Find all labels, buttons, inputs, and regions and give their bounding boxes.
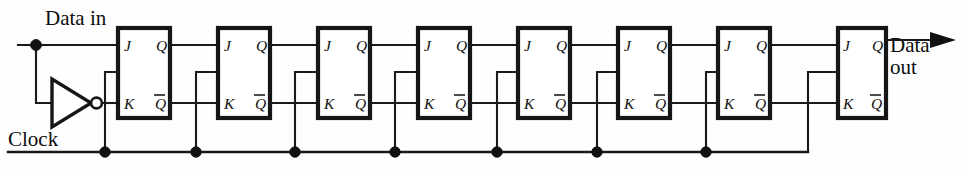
pin-label-j: J: [424, 37, 432, 54]
pin-label-q: Q: [456, 37, 467, 54]
pin-label-qbar: Q: [155, 95, 166, 112]
flipflop-stage-5: J Q K Q: [470, 28, 570, 157]
pin-label-qbar: Q: [755, 95, 766, 112]
pin-label-k: K: [223, 95, 235, 112]
clock-junction-dot: [191, 147, 201, 157]
pin-label-qbar: Q: [555, 95, 566, 112]
pin-label-q: Q: [872, 37, 883, 54]
data-in-tap-to-inverter: [36, 45, 50, 103]
clock-label: Clock: [8, 127, 59, 151]
clock-stub-wire: [196, 72, 218, 152]
pin-label-q: Q: [756, 37, 767, 54]
pin-label-k: K: [123, 95, 135, 112]
pin-label-k: K: [623, 95, 635, 112]
clock-junction-dot: [390, 147, 400, 157]
pin-label-q: Q: [656, 37, 667, 54]
pin-label-q: Q: [356, 37, 367, 54]
clock-junction-dot: [100, 147, 110, 157]
pin-label-j: J: [843, 37, 851, 54]
clock-junction-dot: [592, 147, 602, 157]
clock-junction-dot: [701, 147, 711, 157]
data-in-label: Data in: [45, 6, 107, 30]
pin-label-j: J: [324, 37, 332, 54]
pin-label-q: Q: [156, 37, 167, 54]
data-out-arrow-icon: [930, 32, 956, 48]
pin-label-j: J: [724, 37, 732, 54]
pin-label-q: Q: [256, 37, 267, 54]
pin-label-qbar: Q: [455, 95, 466, 112]
clock-junction-dot: [290, 147, 300, 157]
pin-label-q: Q: [556, 37, 567, 54]
pin-label-k: K: [323, 95, 335, 112]
pin-label-k: K: [523, 95, 535, 112]
clock-stub-wire: [597, 72, 618, 152]
pin-label-j: J: [224, 37, 232, 54]
flipflop-stage-3: J Q K Q: [270, 28, 370, 157]
schematic-canvas: Data in Clock Data out J Q K Q: [0, 0, 964, 172]
pin-label-j: J: [624, 37, 632, 54]
pin-label-k: K: [842, 95, 854, 112]
pin-label-k: K: [423, 95, 435, 112]
data-out-label-line2: out: [890, 55, 917, 79]
clock-stub-wire: [295, 72, 318, 152]
clock-stub-wire: [808, 72, 838, 152]
pin-label-qbar: Q: [355, 95, 366, 112]
pin-label-qbar: Q: [871, 95, 882, 112]
clock-stub-wire: [497, 72, 518, 152]
pin-label-qbar: Q: [655, 95, 666, 112]
flipflop-stage-1: J Q K Q: [100, 28, 170, 157]
pin-label-j: J: [524, 37, 532, 54]
flipflop-stage-8: J Q K Q: [770, 28, 886, 152]
inverter-triangle: [52, 79, 91, 127]
data-out-label-line1: Data: [890, 33, 930, 57]
inverter-bubble-icon: [91, 98, 102, 109]
flipflop-stage-7: J Q K Q: [670, 28, 770, 157]
flipflop-stage-6: J Q K Q: [570, 28, 670, 157]
clock-stub-wire: [395, 72, 418, 152]
clock-junction-dot: [492, 147, 502, 157]
pin-label-qbar: Q: [255, 95, 266, 112]
data-in-junction-dot: [31, 40, 42, 51]
circuit-diagram: Data in Clock Data out J Q K Q: [0, 0, 964, 172]
flipflop-stage-2: J Q K Q: [170, 28, 270, 157]
pin-label-j: J: [124, 37, 132, 54]
flipflop-stage-4: J Q K Q: [370, 28, 470, 157]
pin-label-k: K: [723, 95, 735, 112]
